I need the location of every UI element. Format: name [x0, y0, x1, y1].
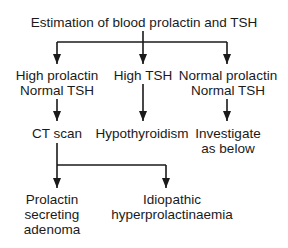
ct-scan-node: CT scan [32, 126, 82, 141]
idiopathic-line2: hyperprolactinaemia [111, 207, 233, 222]
adenoma-node: Prolactin secreting adenoma [24, 192, 80, 237]
branch-2-line1: High TSH [114, 68, 172, 83]
branch-high-prolactin: High prolactin Normal TSH [16, 68, 99, 98]
hypothyroidism-node: Hypothyroidism [95, 126, 188, 141]
branch-3-line2: Normal TSH [179, 83, 277, 98]
adenoma-line3: adenoma [24, 222, 80, 237]
branch-3-line1: Normal prolactin [179, 68, 277, 83]
investigate-line2: as below [195, 141, 260, 156]
idiopathic-node: Idiopathic hyperprolactinaemia [111, 192, 233, 222]
root-node: Estimation of blood prolactin and TSH [31, 15, 257, 30]
investigate-line1: Investigate [195, 126, 260, 141]
adenoma-line1: Prolactin [24, 192, 80, 207]
branch-1-line2: Normal TSH [16, 83, 99, 98]
investigate-node: Investigate as below [195, 126, 260, 156]
branch-normal: Normal prolactin Normal TSH [179, 68, 277, 98]
branch-1-line1: High prolactin [16, 68, 99, 83]
branch-high-tsh: High TSH [114, 68, 172, 83]
adenoma-line2: secreting [24, 207, 80, 222]
idiopathic-line1: Idiopathic [111, 192, 233, 207]
